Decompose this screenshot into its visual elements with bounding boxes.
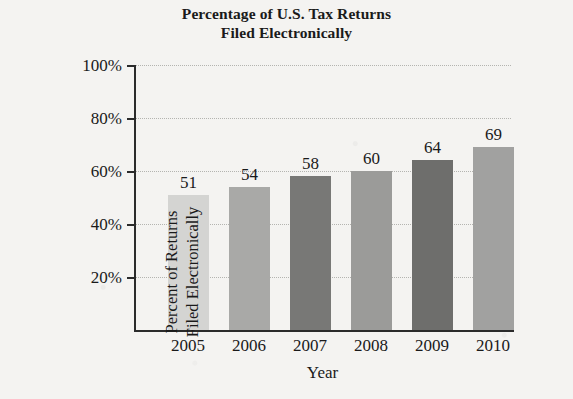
y-tick-label-100: 100% [82,57,122,74]
chart-title-line-1: Percentage of U.S. Tax Returns [182,5,391,22]
bar-value-2009: 64 [424,139,441,156]
bar-2008[interactable]: 60 [351,171,392,330]
gridline-80 [136,118,511,120]
chart-title: Percentage of U.S. Tax Returns Filed Ele… [0,4,573,42]
x-axis-title: Year [134,363,511,383]
y-axis-line [134,65,136,330]
y-tick-80 [127,118,136,120]
y-tick-label-20: 20% [91,269,122,286]
y-tick-20 [127,277,136,279]
gridline-100 [136,65,511,67]
x-tick-label-2009: 2009 [415,337,449,354]
x-tick-label-2006: 2006 [232,337,266,354]
bar-value-2007: 58 [302,155,319,172]
y-tick-label-80: 80% [91,110,122,127]
y-tick-label-60: 60% [91,163,122,180]
bar-value-2008: 60 [363,150,380,167]
x-tick-label-2008: 2008 [354,337,388,354]
y-axis-title-line-2: Filed Electronically [182,157,203,387]
bar-2010[interactable]: 69 [473,147,514,330]
x-tick-label-2007: 2007 [293,337,327,354]
y-tick-100 [127,65,136,67]
bar-2007[interactable]: 58 [290,176,331,330]
y-tick-60 [127,171,136,173]
chart-title-line-2: Filed Electronically [0,23,573,42]
y-tick-40 [127,224,136,226]
plot-area: 100% 80% 60% 40% 20% 51 54 58 60 64 69 2… [134,65,511,330]
x-tick-label-2010: 2010 [476,337,510,354]
y-axis-title: Percent of Returns Filed Electronically [161,157,203,387]
y-axis-title-line-1: Percent of Returns [162,211,181,334]
bar-2009[interactable]: 64 [412,160,453,330]
bar-value-2010: 69 [485,126,502,143]
bar-value-2006: 54 [241,166,258,183]
y-tick-label-40: 40% [91,216,122,233]
bar-2006[interactable]: 54 [229,187,270,330]
